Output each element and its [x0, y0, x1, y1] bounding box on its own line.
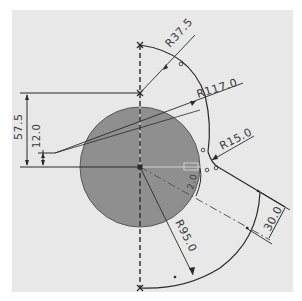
center-point-marker[interactable]	[138, 165, 143, 170]
arc-point	[246, 227, 249, 230]
dimension-12-0[interactable]: 12.0	[31, 124, 42, 148]
arc-point	[174, 276, 177, 279]
dimension-57-5[interactable]: 57.5	[12, 114, 25, 141]
arc-point	[257, 190, 260, 193]
cad-sketch-canvas[interactable]: 57.5 12.0 R95.0 R37.5 R117.0 R15.0 30.0 …	[0, 0, 302, 301]
